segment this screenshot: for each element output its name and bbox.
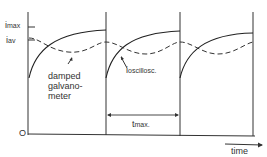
tmax-label: tmax.: [132, 120, 150, 129]
diagram: imax iav O damped galvano- meter ioscill…: [0, 0, 267, 157]
time-arrow: [225, 144, 262, 145]
oscilloscope-label: ioscillosc.: [126, 66, 156, 75]
imax-label: imax: [5, 21, 20, 30]
diagram-graphics: [0, 0, 267, 157]
origin-label: O: [19, 129, 26, 138]
oscilloscope-curve-3: [180, 33, 253, 78]
time-arrow-head: [258, 143, 263, 148]
time-label: time: [231, 147, 248, 156]
tmax-arrow-right-head: [175, 113, 179, 117]
tmax-arrow-left-head: [107, 113, 111, 117]
iav-label: iav: [6, 36, 15, 45]
oscilloscope-pointer-head: [121, 56, 124, 60]
x-axis: [28, 134, 255, 136]
damped-galvanometer-label: damped galvano- meter: [48, 71, 83, 101]
damped-galvanometer-curve: [29, 38, 253, 54]
